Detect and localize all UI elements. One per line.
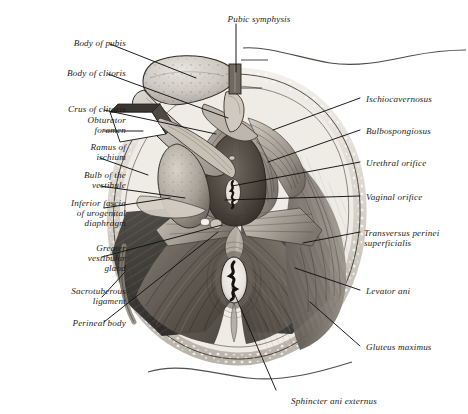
label-bulbospongiosus: Bulbospongiosus — [366, 126, 466, 136]
label-body-of-pubis: Body of pubis — [22, 38, 126, 48]
label-levator-ani: Levator ani — [366, 286, 466, 296]
label-inferior-fascia: Inferior fascia of urogenital diaphragm — [10, 198, 126, 229]
label-sacrotuberous-ligament: Sacrotuberous ligament — [12, 286, 126, 306]
label-perineal-body: Perineal body — [18, 318, 126, 328]
anatomical-plate: Body of pubisBody of clitorisCrus of cli… — [0, 0, 468, 414]
label-gluteus-maximus: Gluteus maximus — [366, 342, 466, 352]
label-bulb-of-the-vestibule: Bulb of the vestibule — [24, 170, 126, 190]
label-vaginal-orifice: Vaginal orifice — [366, 192, 466, 202]
label-obturator-foramen: Obturator foramen — [30, 115, 126, 135]
label-body-of-clitoris: Body of clitoris — [14, 68, 126, 78]
label-greater-vestibular-gland: Greater vestibular gland — [18, 243, 126, 274]
label-ischiocavernosus: Ischiocavernosus — [366, 94, 466, 104]
pubic-symphysis — [229, 64, 241, 94]
label-ramus-of-ischium: Ramus of ischium — [30, 142, 126, 162]
label-urethral-orifice: Urethral orifice — [366, 158, 466, 168]
label-pubic-symphysis: Pubic symphysis — [212, 14, 306, 24]
label-sphincter-ani-externus: Sphincter ani externus — [268, 396, 400, 406]
label-crus-of-clitoris: Crus of clitoris — [18, 104, 126, 114]
label-transversus-perinei: Transversus perinei superficialis — [364, 228, 468, 248]
